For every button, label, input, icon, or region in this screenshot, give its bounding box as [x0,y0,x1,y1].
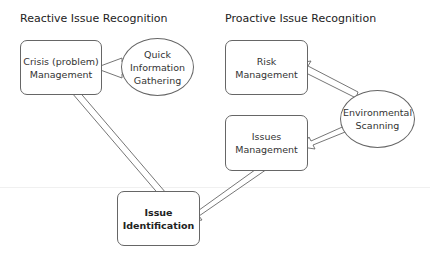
node-crisis-management: Crisis (problem)Management [20,40,102,95]
node-label: Identification [123,219,195,232]
node-label: Management [23,68,98,81]
node-label: Risk [235,55,298,68]
node-label: Environmental [343,106,412,119]
node-label: Issue [123,206,195,219]
node-label: Quick [130,48,185,61]
node-label: Scanning [343,119,412,132]
node-label: Crisis (problem) [23,55,98,68]
node-label: Issues [235,130,298,143]
node-label: Management [235,143,298,156]
node-label: Gathering [130,74,185,87]
node-environmental-scanning: EnvironmentalScanning [340,90,415,148]
node-label: Management [235,68,298,81]
node-risk-management: RiskManagement [225,40,308,95]
node-quick-information-gathering: QuickInformationGathering [121,38,194,96]
node-label: Information [130,61,185,74]
arrow-issues-to-issue [188,162,270,222]
node-issue-identification: IssueIdentification [117,191,200,246]
arrow-crisis-to-issue [66,82,176,209]
node-issues-management: IssuesManagement [225,115,308,171]
